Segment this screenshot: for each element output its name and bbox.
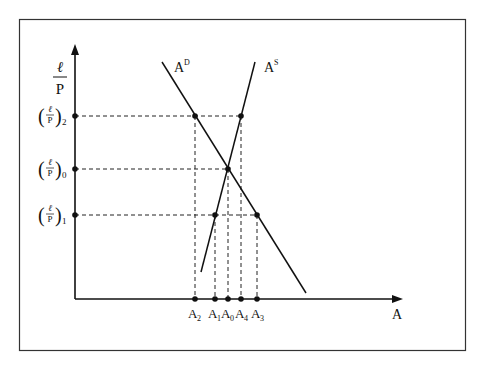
supply-demand-diagram: ℓ P ( ℓ P ) 2 ( ℓ P ) 0 ( ℓ P ) 1 A D A … (0, 0, 485, 370)
svg-text:ℓ: ℓ (48, 203, 52, 213)
svg-text:4: 4 (244, 314, 248, 323)
y-axis-arrow-icon (71, 44, 79, 55)
svg-text:(: ( (38, 105, 45, 128)
x-tick-1: A 1 (208, 306, 221, 323)
demand-label: A D (174, 58, 190, 75)
y-tick-2: ( ℓ P ) 2 (38, 104, 67, 128)
x-tick-0: A 0 (221, 306, 234, 323)
svg-text:P: P (56, 81, 64, 97)
vertical-guides (195, 116, 257, 299)
points (72, 113, 260, 302)
svg-text:(: ( (38, 204, 45, 227)
svg-text:ℓ: ℓ (57, 59, 63, 75)
svg-text:ℓ: ℓ (48, 157, 52, 167)
svg-text:1: 1 (62, 216, 67, 226)
svg-text:2: 2 (197, 314, 201, 323)
svg-text:0: 0 (62, 170, 67, 180)
x-axis-arrow-icon (392, 295, 403, 303)
svg-text:): ) (55, 105, 62, 128)
svg-text:D: D (184, 58, 190, 67)
y-tick-1: ( ℓ P ) 1 (38, 203, 67, 227)
x-axis-label: A (392, 307, 403, 322)
svg-text:ℓ: ℓ (48, 104, 52, 114)
svg-text:P: P (47, 115, 52, 125)
svg-text:): ) (55, 204, 62, 227)
horizontal-guides (75, 116, 257, 215)
svg-text:3: 3 (260, 314, 264, 323)
demand-curve (162, 62, 306, 293)
svg-text:S: S (274, 58, 278, 67)
svg-text:0: 0 (230, 314, 234, 323)
svg-text:P: P (47, 168, 52, 178)
supply-label: A S (264, 58, 278, 75)
x-tick-3: A 3 (251, 306, 264, 323)
y-axis-label: ℓ P (53, 59, 67, 97)
svg-text:): ) (55, 158, 62, 181)
x-tick-2: A 2 (188, 306, 201, 323)
y-tick-0: ( ℓ P ) 0 (38, 157, 67, 181)
x-tick-4: A 4 (235, 306, 248, 323)
svg-text:P: P (47, 214, 52, 224)
svg-text:(: ( (38, 158, 45, 181)
svg-text:2: 2 (62, 117, 67, 127)
